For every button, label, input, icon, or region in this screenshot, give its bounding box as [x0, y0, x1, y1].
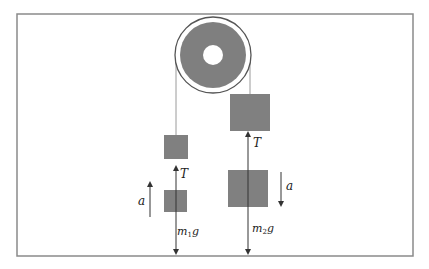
tension-label-left: T [180, 167, 189, 181]
block-m2-hanging [230, 94, 270, 131]
acceleration-label-right: a [286, 179, 293, 193]
atwood-machine-diagram: T T m1g m2g a a [0, 0, 429, 269]
pulley-icon [175, 17, 251, 93]
tension-label-right: T [253, 136, 262, 150]
acceleration-label-left: a [138, 194, 145, 208]
block-m1-hanging [164, 135, 188, 159]
